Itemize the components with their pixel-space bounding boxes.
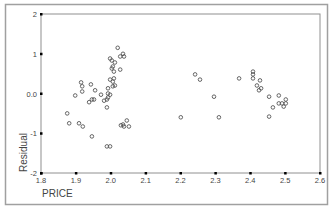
chart-frame: 210.0-1-2 1.81.92.02.12.22.32.42.52.6 PR… (0, 0, 332, 208)
x-tick-mark (40, 172, 43, 175)
x-tick-label: 2.5 (280, 176, 290, 185)
x-tick-label: 2.3 (210, 176, 220, 185)
x-tick-label: 2.4 (245, 176, 255, 185)
x-tick-mark (319, 172, 322, 175)
x-tick-mark (284, 172, 287, 175)
x-axis-label: PRICE (42, 188, 73, 199)
y-tick-mark (40, 53, 43, 56)
y-tick-label: 2 (33, 10, 37, 19)
y-tick-mark (40, 132, 43, 135)
scatter-plot: 210.0-1-2 1.81.92.02.12.22.32.42.52.6 PR… (0, 0, 332, 208)
y-tick-label: -1 (30, 129, 37, 138)
x-tick-label: 2.2 (175, 176, 185, 185)
y-tick-mark (40, 13, 43, 16)
y-tick-label: 1 (33, 50, 37, 59)
x-tick-mark (145, 172, 148, 175)
x-tick-label: 1.8 (36, 176, 46, 185)
x-tick-mark (180, 172, 183, 175)
x-tick-mark (214, 172, 217, 175)
y-axis-label: Residual (18, 133, 29, 172)
x-tick-mark (249, 172, 252, 175)
y-tick-label: 0.0 (27, 90, 37, 99)
x-tick-mark (75, 172, 78, 175)
x-tick-label: 1.9 (71, 176, 81, 185)
y-tick-mark (40, 93, 43, 96)
x-tick-label: 2.1 (140, 176, 150, 185)
x-tick-label: 2.0 (106, 176, 116, 185)
x-tick-mark (110, 172, 113, 175)
x-tick-label: 2.6 (315, 176, 325, 185)
